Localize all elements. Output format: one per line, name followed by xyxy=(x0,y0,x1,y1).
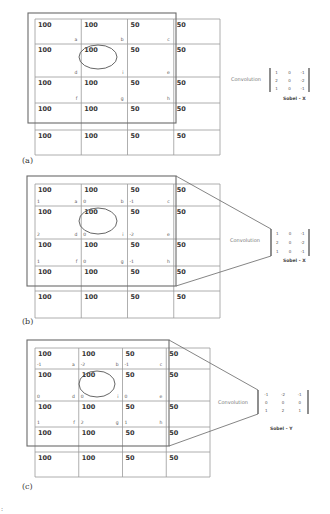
cell-letter: a xyxy=(72,362,75,367)
kernel-weight: 2 xyxy=(81,420,84,425)
pixel-value: 50 xyxy=(126,371,136,379)
panel-caption: (c) xyxy=(22,482,33,491)
cell-letter: e xyxy=(159,394,162,399)
kernel-weight: 1 xyxy=(37,420,40,425)
panel-c: 1001005050100100505010010050501001005050… xyxy=(0,0,330,514)
cell-letter: f xyxy=(73,420,75,425)
kernel-matrix-value: -2 xyxy=(281,392,285,397)
cell-letter: c xyxy=(160,362,163,367)
kernel-weight: 0 xyxy=(125,394,128,399)
cell-letter: d xyxy=(72,394,75,399)
kernel-matrix-value: -1 xyxy=(298,392,302,397)
pixel-value: 100 xyxy=(38,371,52,379)
cell-letter: i xyxy=(117,394,118,399)
kernel-weight: 0 xyxy=(37,394,40,399)
kernel-weight: 0 xyxy=(81,394,84,399)
cell-letter: b xyxy=(116,362,119,367)
kernel-weight: -1 xyxy=(125,362,130,367)
projection-line-top xyxy=(169,340,258,390)
pixel-value: 50 xyxy=(169,403,179,411)
kernel-weight: -1 xyxy=(37,362,42,367)
projection-line-bottom xyxy=(169,414,258,446)
stray-mark: : xyxy=(1,505,3,512)
pixel-value: 100 xyxy=(82,454,96,462)
pixel-value: 100 xyxy=(38,454,52,462)
pixel-value: 50 xyxy=(126,454,136,462)
convolution-label: Convolution xyxy=(218,399,248,405)
pixel-value: 50 xyxy=(169,350,179,358)
pixel-value: 100 xyxy=(82,350,96,358)
kernel-matrix-value: 0 xyxy=(282,400,285,405)
kernel-name: Sobel - Y xyxy=(270,426,293,431)
pixel-value: 50 xyxy=(169,371,179,379)
pixel-value: 100 xyxy=(38,429,52,437)
pixel-value: 50 xyxy=(169,454,179,462)
pixel-value: 50 xyxy=(126,350,136,358)
pixel-value: 100 xyxy=(82,429,96,437)
center-pixel-highlight xyxy=(79,371,115,397)
pixel-value: 50 xyxy=(126,429,136,437)
kernel-matrix-value: 1 xyxy=(265,408,268,413)
kernel-weight: 1 xyxy=(125,420,128,425)
pixel-value: 100 xyxy=(38,403,52,411)
kernel-matrix-value: 2 xyxy=(282,408,285,413)
pixel-value: 100 xyxy=(82,403,96,411)
kernel-matrix-value: 0 xyxy=(265,400,268,405)
pixel-value: 50 xyxy=(169,429,179,437)
kernel-matrix-value: 0 xyxy=(298,400,301,405)
kernel-matrix-value: -1 xyxy=(264,392,268,397)
convolution-diagram-c: 1001005050100100505010010050501001005050… xyxy=(0,0,330,514)
kernel-weight: -2 xyxy=(81,362,86,367)
kernel-matrix-value: 1 xyxy=(298,408,301,413)
cell-letter: g xyxy=(116,420,119,425)
pixel-value: 50 xyxy=(126,403,136,411)
pixel-value: 100 xyxy=(38,350,52,358)
cell-letter: h xyxy=(159,420,162,425)
